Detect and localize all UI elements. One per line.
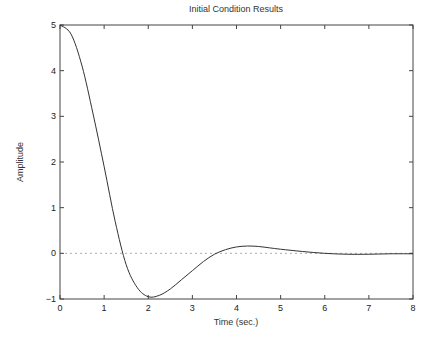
- y-tick-label: 5: [51, 20, 56, 30]
- y-tick-label: −1: [46, 294, 56, 304]
- x-tick-label: 1: [102, 303, 107, 313]
- x-tick-label: 8: [410, 303, 415, 313]
- y-tick-label: 1: [51, 203, 56, 213]
- x-tick-label: 5: [278, 303, 283, 313]
- chart-title: Initial Condition Results: [189, 4, 284, 14]
- y-tick-label: 2: [51, 157, 56, 167]
- chart: Initial Condition Results 012345678−1012…: [0, 0, 435, 340]
- x-tick-label: 2: [146, 303, 151, 313]
- x-tick-label: 3: [190, 303, 195, 313]
- plot-area: 012345678−1012345: [46, 20, 416, 313]
- x-tick-label: 6: [322, 303, 327, 313]
- x-axis-label: Time (sec.): [214, 317, 259, 327]
- axes-frame: [60, 25, 413, 299]
- series-line-response: [60, 25, 413, 297]
- x-tick-label: 4: [234, 303, 239, 313]
- y-tick-label: 0: [51, 248, 56, 258]
- y-tick-label: 4: [51, 66, 56, 76]
- x-tick-label: 7: [366, 303, 371, 313]
- y-tick-label: 3: [51, 111, 56, 121]
- y-axis-label: Amplitude: [15, 142, 25, 182]
- x-tick-label: 0: [57, 303, 62, 313]
